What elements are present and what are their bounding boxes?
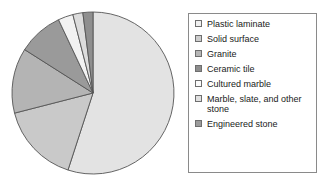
legend-label-solid-surface: Solid surface	[207, 34, 259, 44]
legend-label-marble-slate-other-stone: Marble, slate, and other stone	[207, 94, 312, 114]
legend-swatch-cultured-marble	[195, 80, 202, 87]
legend-label-granite: Granite	[207, 49, 237, 59]
legend-swatch-ceramic-tile	[195, 65, 202, 72]
legend-swatch-engineered-stone	[195, 120, 202, 127]
legend-swatch-solid-surface	[195, 35, 202, 42]
legend-item-cultured-marble[interactable]: Cultured marble	[195, 79, 312, 89]
legend-item-plastic-laminate[interactable]: Plastic laminate	[195, 19, 312, 29]
legend-swatch-granite	[195, 50, 202, 57]
legend-item-engineered-stone[interactable]: Engineered stone	[195, 119, 312, 129]
pie-plot-area	[0, 0, 186, 187]
legend-label-plastic-laminate: Plastic laminate	[207, 19, 270, 29]
legend-swatch-marble-slate-other-stone	[195, 95, 202, 102]
legend-item-solid-surface[interactable]: Solid surface	[195, 34, 312, 44]
pie-svg	[0, 0, 186, 187]
chart-legend: Plastic laminate Solid surface Granite C…	[188, 13, 317, 173]
legend-label-ceramic-tile: Ceramic tile	[207, 64, 255, 74]
legend-item-marble-slate-other-stone[interactable]: Marble, slate, and other stone	[195, 94, 312, 114]
pie-slice-group	[12, 12, 174, 174]
legend-item-granite[interactable]: Granite	[195, 49, 312, 59]
legend-swatch-plastic-laminate	[195, 20, 202, 27]
legend-item-ceramic-tile[interactable]: Ceramic tile	[195, 64, 312, 74]
pie-chart-figure: Plastic laminate Solid surface Granite C…	[0, 0, 323, 187]
legend-label-cultured-marble: Cultured marble	[207, 79, 271, 89]
legend-label-engineered-stone: Engineered stone	[207, 119, 278, 129]
